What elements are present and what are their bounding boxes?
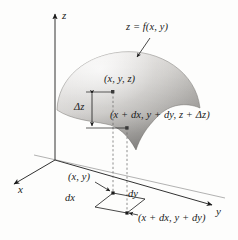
offset-point-leader xyxy=(129,213,138,215)
z-axis-label: z xyxy=(62,10,66,21)
base-corner-marker-offset xyxy=(125,211,128,214)
offset-base-point-label: (x + dx, y + dy) xyxy=(138,213,206,224)
delta-z-label: Δz xyxy=(74,102,84,113)
upper-point-label: (x, y, z) xyxy=(104,74,135,85)
base-point-leader xyxy=(95,182,110,191)
base-corner-marker xyxy=(111,191,114,194)
y-axis-label: y xyxy=(216,206,221,217)
point-marker-lower xyxy=(125,126,128,129)
lower-point-label: (x + dx, y + dy, z + Δz) xyxy=(110,110,210,121)
differential-surface-figure: z x y z = f(x, y) (x, y, z) Δz (x + dx, … xyxy=(0,0,238,240)
dx-label: dx xyxy=(65,193,75,204)
point-marker-upper xyxy=(111,90,114,93)
surface-equation-label: z = f(x, y) xyxy=(126,22,168,33)
base-point-label: (x, y) xyxy=(68,172,90,183)
dy-label: dy xyxy=(128,189,138,200)
x-axis-label: x xyxy=(18,184,23,195)
x-axis xyxy=(14,160,55,184)
